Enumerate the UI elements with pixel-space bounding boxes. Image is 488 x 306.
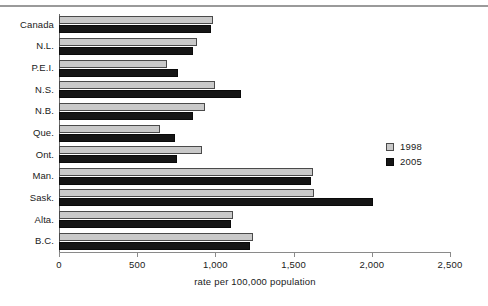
- bar-2005: [59, 134, 175, 142]
- legend-item-1998: 1998: [386, 139, 422, 154]
- x-axis-tick: [294, 253, 295, 257]
- x-axis-tick-label: 2,000: [342, 259, 402, 270]
- category-label: P.E.I.: [0, 62, 54, 73]
- bar-1998: [59, 60, 167, 68]
- bar-1998: [59, 16, 213, 24]
- legend-item-2005: 2005: [386, 154, 422, 169]
- category-label: Sask.: [0, 192, 54, 203]
- x-axis-tick: [372, 253, 373, 257]
- bar-1998: [59, 233, 253, 241]
- bar-2005: [59, 155, 177, 163]
- category-axis-labels: CanadaN.L.P.E.I.N.S.N.B.Que.Ont.Man.Sask…: [0, 14, 54, 252]
- x-axis-tick: [450, 253, 451, 257]
- bar-2005: [59, 220, 231, 228]
- bar-2005: [59, 47, 193, 55]
- category-label: N.B.: [0, 105, 54, 116]
- bar-2005: [59, 90, 241, 98]
- bar-1998: [59, 81, 215, 89]
- x-axis-line: [59, 252, 451, 253]
- category-label: Alta.: [0, 214, 54, 225]
- category-label: N.L.: [0, 40, 54, 51]
- bar-1998: [59, 38, 197, 46]
- category-label: Ont.: [0, 149, 54, 160]
- bar-1998: [59, 189, 314, 197]
- bar-1998: [59, 146, 202, 154]
- bar-2005: [59, 112, 193, 120]
- legend-swatch-1998: [386, 143, 394, 151]
- x-axis-tick-label: 1,500: [264, 259, 324, 270]
- x-axis-tick: [137, 253, 138, 257]
- legend-label-1998: 1998: [400, 141, 422, 152]
- bar-1998: [59, 103, 205, 111]
- x-axis-tick: [59, 253, 60, 257]
- bar-2005: [59, 198, 373, 206]
- bar-1998: [59, 211, 233, 219]
- category-label: N.S.: [0, 84, 54, 95]
- x-axis-tick-label: 0: [29, 259, 89, 270]
- x-axis-tick-label: 500: [107, 259, 167, 270]
- category-label: Canada: [0, 19, 54, 30]
- bar-2005: [59, 242, 250, 250]
- x-axis-title: rate per 100,000 population: [59, 276, 451, 287]
- category-label: Man.: [0, 170, 54, 181]
- chart-container: CanadaN.L.P.E.I.N.S.N.B.Que.Ont.Man.Sask…: [0, 0, 488, 306]
- legend-label-2005: 2005: [400, 156, 422, 167]
- bar-2005: [59, 25, 211, 33]
- category-label: Que.: [0, 127, 54, 138]
- bar-2005: [59, 177, 311, 185]
- header-rule: [0, 5, 488, 7]
- legend-swatch-2005: [386, 158, 394, 166]
- bar-1998: [59, 125, 160, 133]
- plot-area: [59, 14, 450, 252]
- bar-2005: [59, 69, 178, 77]
- x-axis-tick: [215, 253, 216, 257]
- x-axis-tick-label: 1,000: [185, 259, 245, 270]
- category-label: B.C.: [0, 235, 54, 246]
- x-axis-tick-label: 2,500: [420, 259, 480, 270]
- chart-legend: 1998 2005: [386, 139, 422, 169]
- bar-1998: [59, 168, 313, 176]
